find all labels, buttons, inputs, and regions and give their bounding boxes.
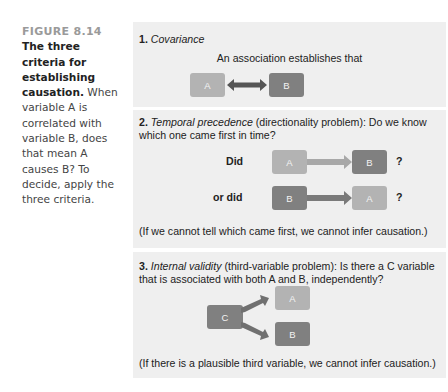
box-a: A <box>272 150 307 174</box>
criterion-internal-validity: 3. Internal validity (third-variable pro… <box>133 252 446 378</box>
box-b: B <box>272 186 307 210</box>
question-mark: ? <box>396 191 402 203</box>
criterion-heading: 2. Temporal precedence (directionality p… <box>139 116 439 142</box>
criterion-temporal-precedence: 2. Temporal precedence (directionality p… <box>133 110 446 248</box>
box-b: B <box>275 322 310 346</box>
row-label-did: Did <box>226 155 243 167</box>
criterion-term: Temporal precedence <box>151 116 253 128</box>
box-a: A <box>352 186 387 210</box>
fork-arrow-icon <box>241 291 275 345</box>
figure-label: FIGURE 8.14 <box>22 24 122 39</box>
box-b: B <box>269 73 304 97</box>
criterion-covariance: 1. Covariance An association establishes… <box>133 22 446 107</box>
box-b: B <box>352 150 387 174</box>
criterion-heading: 3. Internal validity (third-variable pro… <box>139 260 439 286</box>
criterion-term: Covariance <box>151 33 205 45</box>
bidirectional-arrow-icon <box>227 77 267 93</box>
box-c: C <box>207 305 243 329</box>
box-a: A <box>190 73 225 97</box>
arrow-right-icon <box>307 190 352 206</box>
row-label-or-did: or did <box>213 191 242 203</box>
temporal-note: (If we cannot tell which came first, we … <box>139 225 428 237</box>
figure-caption-body: When variable A is correlated with varia… <box>22 86 118 205</box>
arrow-right-icon <box>307 154 352 170</box>
figure-caption: FIGURE 8.14 The three criteria for estab… <box>22 24 122 208</box>
criterion-number: 2. <box>139 116 148 128</box>
covariance-statement: An association establishes that <box>133 52 446 64</box>
internal-validity-note: (If there is a plausible third variable,… <box>139 357 436 369</box>
question-mark: ? <box>396 155 402 167</box>
box-a: A <box>275 286 310 310</box>
criterion-heading: 1. Covariance <box>139 33 204 46</box>
criterion-number: 1. <box>139 33 148 45</box>
criterion-number: 3. <box>139 260 148 272</box>
criterion-term: Internal validity <box>151 260 222 272</box>
